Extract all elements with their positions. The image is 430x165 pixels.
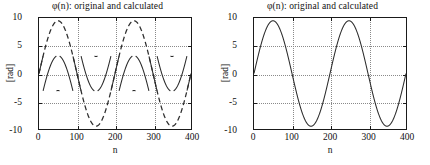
panel-right: φ(n): original and calculated <box>215 0 430 165</box>
plot-title-left-text: φ(n): original and calculated <box>52 1 163 11</box>
ytick-label-0-right: 0 <box>232 69 237 79</box>
ytick-label-minus10-left: -10 <box>9 125 22 135</box>
ytick-label-5-right: 5 <box>232 40 237 50</box>
xtick-label-400-right: 400 <box>400 132 414 142</box>
panel-left: φ(n): original and calculated <box>0 0 215 165</box>
ytick-label-minus5-left: -5 <box>14 97 22 107</box>
xtick-label-100-left: 100 <box>69 132 83 142</box>
plot-title-right: φ(n): original and calculated <box>215 1 430 11</box>
ytick-label-minus10-right: -10 <box>224 125 237 135</box>
curve-group-right <box>254 18 406 129</box>
ytick-label-5-left: 5 <box>17 40 22 50</box>
xtick-label-0-right: 0 <box>251 132 256 142</box>
xaxis-label-left: n <box>38 145 192 155</box>
axes-left <box>38 17 192 130</box>
xtick-label-0-left: 0 <box>36 132 41 142</box>
figure-two-panel-phase-plots: φ(n): original and calculated <box>0 0 430 165</box>
ytick-label-0-left: 0 <box>17 69 22 79</box>
xtick-label-300-left: 300 <box>146 132 160 142</box>
xaxis-label-right: n <box>253 145 407 155</box>
ytick-label-10-left: 10 <box>13 12 23 22</box>
xtick-label-100-right: 100 <box>284 132 298 142</box>
xtick-label-200-left: 200 <box>108 132 122 142</box>
curve-group-left <box>39 18 191 129</box>
plot-title-left: φ(n): original and calculated <box>0 1 215 11</box>
axes-right <box>253 17 407 130</box>
series-calculated-wrapped-left <box>39 56 191 91</box>
yaxis-label-right: [rad] <box>220 64 230 82</box>
ytick-label-10-right: 10 <box>228 12 238 22</box>
xtick-label-200-right: 200 <box>323 132 337 142</box>
plot-title-right-text: φ(n): original and calculated <box>267 1 378 11</box>
xtick-label-400-left: 400 <box>185 132 199 142</box>
yaxis-label-left: [rad] <box>5 64 15 82</box>
series-original-solid-right <box>254 21 406 126</box>
xtick-label-300-right: 300 <box>361 132 375 142</box>
ytick-label-minus5-right: -5 <box>229 97 237 107</box>
